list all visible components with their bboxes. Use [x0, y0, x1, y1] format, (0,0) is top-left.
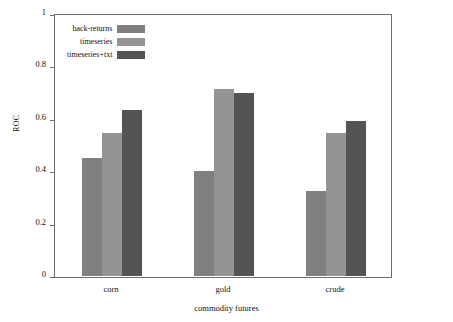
legend-label: timeseries	[80, 38, 112, 46]
y-axis-tick-label: 1	[42, 8, 46, 17]
legend-swatch	[117, 25, 145, 33]
bar	[82, 158, 102, 276]
x-axis-tick-label: crude	[326, 285, 345, 294]
legend-label: back-returns	[72, 25, 112, 33]
y-axis-tick-label: 0.6	[35, 113, 46, 122]
plot-area: back-returnstimeseriestimeseries+txt	[54, 14, 392, 278]
bar	[102, 133, 122, 276]
bar	[122, 110, 142, 276]
legend-item: back-returns	[67, 23, 145, 34]
bar	[346, 121, 366, 276]
bar	[234, 93, 254, 276]
bar	[214, 89, 234, 276]
x-axis: corngoldcrude	[54, 285, 392, 299]
legend-item: timeseries	[67, 36, 145, 47]
legend-swatch	[117, 38, 145, 46]
y-axis-tick-label: 0.2	[35, 218, 46, 227]
legend: back-returnstimeseriestimeseries+txt	[67, 23, 145, 62]
y-axis-tick-label: 0.4	[35, 165, 46, 174]
y-axis-tick-label: 0	[42, 270, 46, 279]
chart-figure: 00.20.40.60.81 ROC back-returnstimeserie…	[0, 0, 453, 322]
bar	[194, 171, 214, 276]
y-axis-title: ROC	[12, 115, 21, 132]
y-axis-tick-label: 0.8	[35, 60, 46, 69]
bar	[306, 191, 326, 276]
x-axis-tick-label: gold	[215, 285, 230, 294]
bar	[326, 133, 346, 276]
x-axis-tick-label: corn	[103, 285, 118, 294]
x-axis-title: commodity futures	[0, 303, 453, 313]
legend-label: timeseries+txt	[67, 51, 112, 59]
y-axis: 00.20.40.60.81	[0, 14, 54, 278]
legend-swatch	[117, 51, 145, 59]
legend-item: timeseries+txt	[67, 49, 145, 60]
